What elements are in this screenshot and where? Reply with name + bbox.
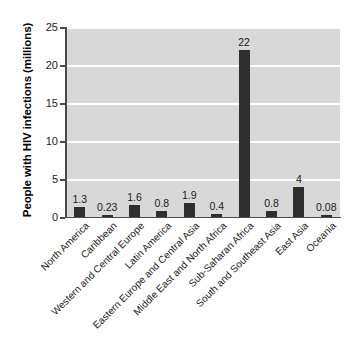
gridline — [66, 65, 340, 67]
bar — [293, 187, 304, 217]
bar — [129, 205, 140, 217]
bar — [321, 215, 332, 217]
bar — [156, 211, 167, 217]
y-tick-mark — [60, 141, 65, 143]
bar-value-label: 1.9 — [169, 190, 209, 201]
bar-value-label: 0.4 — [197, 201, 237, 212]
y-tick-label: 20 — [46, 60, 58, 71]
y-tick-label: 15 — [46, 98, 58, 109]
bar — [266, 211, 277, 217]
y-tick-mark — [60, 179, 65, 181]
bar-value-label: 4 — [279, 174, 319, 185]
bar — [211, 214, 222, 217]
bar-value-label: 0.8 — [252, 198, 292, 209]
y-tick-mark — [60, 217, 65, 219]
gridline — [66, 141, 340, 143]
y-axis-spine — [65, 27, 67, 217]
y-tick-mark — [60, 65, 65, 67]
y-axis-title: People with HIV infections (millions) — [21, 23, 33, 217]
gridline — [66, 103, 340, 105]
bar-chart-figure: People with HIV infections (millions) 05… — [0, 0, 356, 358]
bar — [184, 203, 195, 217]
bar — [102, 215, 113, 217]
y-tick-label: 10 — [46, 136, 58, 147]
gridline — [66, 27, 340, 29]
bar — [74, 207, 85, 217]
y-axis-title-container: People with HIV infections (millions) — [14, 22, 40, 218]
bar — [239, 50, 250, 217]
y-tick-label: 25 — [46, 22, 58, 33]
y-tick-label: 5 — [52, 174, 58, 185]
y-tick-label: 0 — [52, 212, 58, 223]
y-tick-mark — [60, 103, 65, 105]
bar-value-label: 0.23 — [87, 202, 127, 213]
bar-value-label: 22 — [224, 37, 264, 48]
bar-value-label: 0.08 — [306, 202, 346, 213]
y-tick-mark — [60, 27, 65, 29]
